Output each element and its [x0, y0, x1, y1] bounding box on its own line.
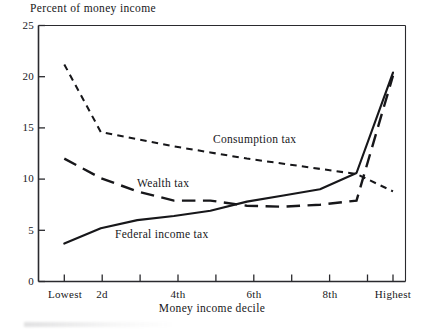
x-axis-title: Money income decile: [0, 302, 424, 314]
x-tick-label-6th: 6th: [234, 288, 274, 300]
plot-canvas: [0, 0, 424, 331]
y-tick-label-10: 10: [8, 172, 34, 184]
series-line-consumption-tax: [64, 64, 393, 191]
x-tick-label-highest: Highest: [364, 288, 422, 300]
page-edge-artifact: [24, 322, 174, 327]
series-line-federal-income-tax: [64, 73, 393, 244]
x-tick-label-8th: 8th: [310, 288, 350, 300]
series-annotation-federal-income-tax: Federal income tax: [115, 228, 209, 240]
x-tick-marks: [64, 275, 393, 282]
series-annotation-consumption-tax: Consumption tax: [213, 133, 296, 145]
chart-figure: Percent of money income: [0, 0, 424, 331]
y-tick-label-15: 15: [8, 121, 34, 133]
series-annotation-wealth-tax: Wealth tax: [137, 177, 189, 189]
y-tick-label-5: 5: [8, 224, 34, 236]
y-tick-marks: [39, 26, 46, 282]
y-tick-label-0: 0: [8, 275, 34, 287]
x-tick-label-4th: 4th: [158, 288, 198, 300]
y-tick-label-20: 20: [8, 70, 34, 82]
x-tick-label-2d: 2d: [82, 288, 122, 300]
y-tick-label-25: 25: [8, 19, 34, 31]
